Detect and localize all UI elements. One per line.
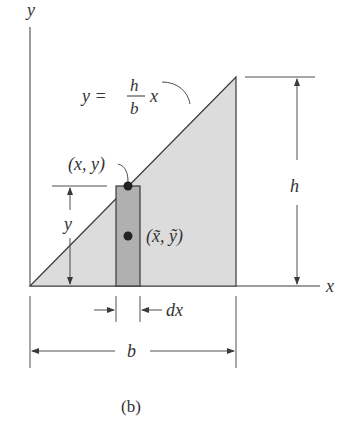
curve-eq-lhs: y = <box>80 86 107 106</box>
b-label: b <box>127 341 136 361</box>
centroid-dot <box>124 232 133 241</box>
triangle-centroid-diagram: y x y = h b x (x, y) y (x̃, ỹ) h dx b (b… <box>0 0 358 422</box>
centroid-label: (x̃, ỹ) <box>146 226 183 247</box>
point-xy-dot <box>124 182 133 191</box>
dx-label: dx <box>166 300 183 320</box>
curve-eq-num: h <box>130 76 139 95</box>
h-label: h <box>290 176 299 196</box>
strip-height-label: y <box>62 214 72 234</box>
curve-eq-var: x <box>149 86 158 106</box>
point-xy-leader <box>118 164 128 182</box>
curve-eq-den: b <box>130 99 139 118</box>
figure-caption: (b) <box>121 397 141 416</box>
y-axis-label: y <box>25 0 35 20</box>
point-xy-label: (x, y) <box>68 154 105 175</box>
x-axis-label: x <box>325 276 334 296</box>
curve-label-leader <box>162 82 190 104</box>
